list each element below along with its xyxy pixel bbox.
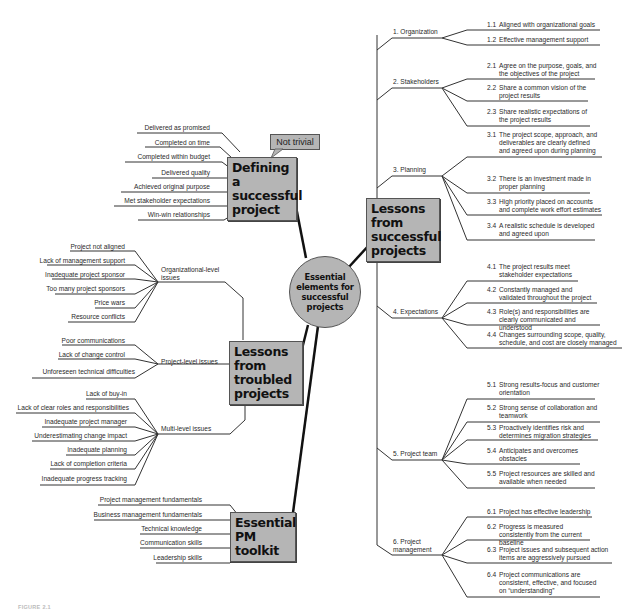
group-label: Organizational-level issues [161,266,221,282]
issue-item: Lack of completion criteria [10,460,127,468]
lesson-item: 4.1The project results meet stakeholder … [487,263,587,279]
figure-caption: FIGURE 2.1 [18,604,51,610]
issue-item: Unforeseen technical difficulties [10,368,135,376]
category-stakeholders: 2. Stakeholders [393,78,439,86]
lesson-item: 5.2Strong sense of collaboration and tea… [487,404,602,420]
issue-item: Inadequate project sponsor [10,271,125,279]
category-organization: 1. Organization [393,28,438,36]
lesson-item: 2.3Share realistic expectations of the p… [487,108,597,124]
lesson-item: 1.2Effective management support [487,36,637,44]
lesson-item: 5.4Anticipates and overcomes obstacles [487,447,587,463]
lesson-item: 6.3Project issues and subsequent action … [487,546,612,562]
lesson-item: 2.1Agree on the purpose, goals, and the … [487,62,602,78]
category-planning: 3. Planning [393,166,426,174]
lesson-item: 6.1Project has effective leadership [487,508,607,516]
category-expectations: 4. Expectations [393,308,438,316]
lesson-item: 6.4Project communications are consistent… [487,571,599,596]
lesson-item: 3.4A realistic schedule is developed and… [487,222,602,238]
box-title: Defining a successful project [232,160,302,217]
central-hub: Essential elements for successful projec… [289,256,361,328]
toolkit-item: Business management fundamentals [80,511,202,519]
defining-item: Completed on time [100,139,210,147]
box-title: Lessons from successful projects [371,201,441,258]
issue-item: Price wars [10,299,125,307]
category-project-team: 5. Project team [393,450,437,458]
toolkit-item: Communication skills [80,539,202,547]
issue-item: Project not aligned [10,243,125,251]
issue-item: Resource conflicts [10,313,125,321]
toolkit-item: Leadership skills [80,554,202,562]
lesson-item: 5.3Proactively identifies risk and deter… [487,424,602,440]
issue-item: Lack of management support [10,257,125,265]
lesson-item: 3.3High priority placed on accounts and … [487,198,602,214]
box-pm-toolkit: Essential PM toolkit [230,512,296,562]
category-project-management: 6. Project management [393,538,438,554]
lesson-item: 4.4Changes surrounding scope, quality, s… [487,331,622,347]
lesson-item: 5.5Project resources are skilled and ava… [487,470,599,486]
box-title: Lessons from troubled projects [234,344,292,401]
lesson-item: 5.1Strong results-focus and customer ori… [487,381,602,397]
issue-item: Inadequate project manager [10,418,127,426]
box-successful-projects: Lessons from successful projects [366,198,440,262]
issue-item: Lack of clear roles and responsibilities [10,404,129,412]
lesson-item: 6.2Progress is measured consistently fro… [487,523,599,548]
lesson-item: 4.3Role(s) and responsibilities are clea… [487,308,607,333]
lesson-item: 3.1The project scope, approach, and deli… [487,131,602,156]
issue-item: Inadequate progress tracking [10,475,127,483]
defining-item: Completed within budget [100,153,210,161]
callout-label: Not trivial [276,137,314,147]
callout-not-trivial: Not trivial [270,134,320,150]
hub-label: Essential elements for successful projec… [290,272,360,312]
issue-item: Too many project sponsors [10,285,125,293]
lesson-item: 3.2There is an investment made in proper… [487,175,595,191]
issue-item: Lack of change control [10,351,125,359]
toolkit-item: Project management fundamentals [80,496,202,504]
group-label: Project-level issues [161,358,218,366]
issue-item: Underestimating change impact [10,432,127,440]
lesson-item: 2.2Share a common vision of the project … [487,84,597,100]
defining-item: Delivered as promised [100,124,210,132]
defining-item: Achieved original purpose [100,183,210,191]
group-label: Multi-level issues [161,425,211,433]
box-defining-successful-project: Defining a successful project [227,157,297,221]
toolkit-item: Technical knowledge [80,525,202,533]
lesson-item: 1.1Aligned with organizational goals [487,21,637,29]
box-troubled-projects: Lessons from troubled projects [229,341,303,405]
lesson-item: 4.2Constantly managed and validated thro… [487,286,597,302]
defining-item: Met stakeholder expectations [100,197,210,205]
box-title: Essential PM toolkit [235,515,296,558]
issue-item: Lack of buy-in [10,390,127,398]
defining-item: Delivered quality [100,169,210,177]
issue-item: Poor communications [10,337,125,345]
defining-item: Win-win relationships [100,211,210,219]
issue-item: Inadequate planning [10,446,127,454]
